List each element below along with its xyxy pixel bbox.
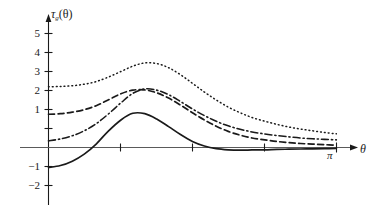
curve-solid [49, 113, 337, 168]
y-axis-label: τg(θ) [51, 8, 73, 22]
y-tick-label-3: 3 [22, 66, 40, 77]
data-curves [49, 63, 337, 168]
x-tick-label-pi: π [327, 150, 333, 161]
y-tick-label-1: 1 [22, 104, 40, 115]
x-axis-label: θ [360, 143, 366, 155]
plot-area [0, 0, 379, 207]
y-tick-label-4: 4 [22, 47, 40, 58]
figure-chart: 5 4 3 2 1 −1 −2 π τg(θ) θ [0, 0, 379, 207]
curve-dash-dot [49, 89, 337, 141]
y-tick-label-5: 5 [22, 28, 40, 39]
y-tick-label-minus-1: −1 [14, 161, 40, 172]
y-tick-label-2: 2 [22, 85, 40, 96]
curve-dotted [49, 63, 337, 134]
y-tick-label-minus-2: −2 [14, 180, 40, 191]
y-axis-label-argument: (θ) [59, 7, 73, 21]
